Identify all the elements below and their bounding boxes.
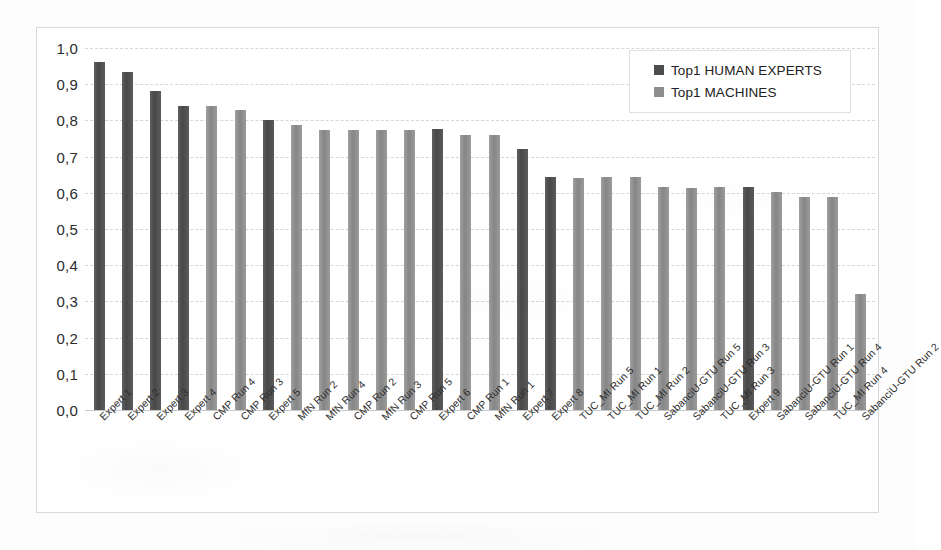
legend-item-machine: Top1 MACHINES (640, 81, 840, 103)
gridline-0-8 (85, 120, 875, 121)
bar (432, 129, 443, 410)
legend-swatch-icon (654, 87, 664, 97)
gridline-0-6 (85, 193, 875, 194)
y-tick-label: 0,4 (34, 257, 78, 274)
bar (714, 187, 725, 410)
bar (348, 130, 359, 410)
gridline-0-3 (85, 301, 875, 302)
y-axis: 1,00,90,80,70,60,50,40,30,20,10,0 (28, 48, 78, 410)
gridline-0-5 (85, 229, 875, 230)
y-tick-label: 0,3 (34, 293, 78, 310)
bar (150, 91, 161, 410)
y-tick-label: 0,8 (34, 112, 78, 129)
legend-label: Top1 MACHINES (671, 85, 777, 100)
y-tick-label: 0,0 (34, 402, 78, 419)
legend-swatch-icon (654, 65, 664, 75)
bar (573, 178, 584, 410)
y-tick-label: 0,7 (34, 148, 78, 165)
x-axis: Expert 1Expert 2Expert 3Expert 4CMP Run … (85, 414, 875, 514)
y-tick-label: 1,0 (34, 40, 78, 57)
bar (771, 192, 782, 410)
bar (460, 135, 471, 410)
bar (122, 72, 133, 410)
y-tick-label: 0,6 (34, 184, 78, 201)
bar (686, 188, 697, 410)
chart-legend: Top1 HUMAN EXPERTSTop1 MACHINES (629, 50, 851, 113)
bar (601, 177, 612, 410)
gridline-0-4 (85, 265, 875, 266)
gridline-0-7 (85, 157, 875, 158)
y-tick-label: 0,9 (34, 76, 78, 93)
bar (291, 125, 302, 410)
bar (235, 110, 246, 410)
y-tick-label: 0,1 (34, 365, 78, 382)
bar (94, 62, 105, 410)
bar (404, 130, 415, 410)
bar (658, 187, 669, 410)
bar (263, 120, 274, 410)
bar (178, 106, 189, 410)
y-tick-label: 0,2 (34, 329, 78, 346)
bar (489, 135, 500, 410)
y-tick-label: 0,5 (34, 221, 78, 238)
gridline-1-0 (85, 48, 875, 49)
bar (206, 106, 217, 410)
bar (376, 130, 387, 410)
gridline-0-2 (85, 338, 875, 339)
legend-label: Top1 HUMAN EXPERTS (671, 63, 822, 78)
bar (545, 177, 556, 410)
bar (517, 149, 528, 410)
bar (319, 130, 330, 410)
legend-item-human: Top1 HUMAN EXPERTS (640, 59, 840, 81)
